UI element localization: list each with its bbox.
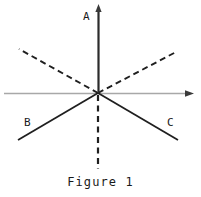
dashed-ray-upper-left-line [19,49,98,93]
horizontal-axis-arrowhead [185,90,194,97]
axis-label-b: B [24,117,31,128]
figure-diagram [0,0,201,197]
figure-container: A B C Figure 1 [0,0,201,197]
ray-c-line [98,93,178,140]
vertical-axis-arrowhead [95,4,101,12]
axis-label-a: A [83,11,90,22]
dashed-ray-upper-right-line [98,52,176,93]
figure-caption: Figure 1 [0,175,201,189]
axis-label-c: C [167,117,174,128]
